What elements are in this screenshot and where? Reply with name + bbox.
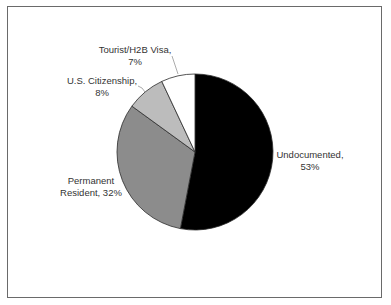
label-permanent-resident: Permanent Resident, 32% xyxy=(58,175,124,199)
label-undocumented: Undocumented, 53% xyxy=(275,149,345,173)
label-us-citizenship: U.S. Citizenship, 8% xyxy=(64,75,140,99)
label-tourist-visa: Tourist/H2B Visa, 7% xyxy=(93,44,177,68)
